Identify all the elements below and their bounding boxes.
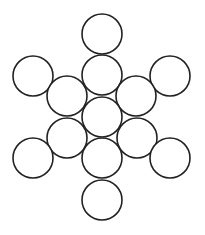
circle-upper-right-outer bbox=[150, 56, 190, 96]
circle-pattern-diagram bbox=[0, 0, 205, 235]
circle-upper-left-inner bbox=[47, 76, 87, 116]
circle-lower-left-inner bbox=[47, 118, 87, 158]
circle-bottom bbox=[82, 180, 122, 220]
circle-lower-right-outer bbox=[150, 138, 190, 178]
circles-group bbox=[13, 14, 190, 220]
circle-center bbox=[82, 97, 122, 137]
circle-upper-center bbox=[82, 55, 122, 95]
circle-upper-right-inner bbox=[116, 76, 156, 116]
circle-top bbox=[82, 14, 122, 54]
circle-lower-center bbox=[82, 138, 122, 178]
circle-lower-left-outer bbox=[13, 138, 53, 178]
circle-upper-left-outer bbox=[13, 56, 53, 96]
